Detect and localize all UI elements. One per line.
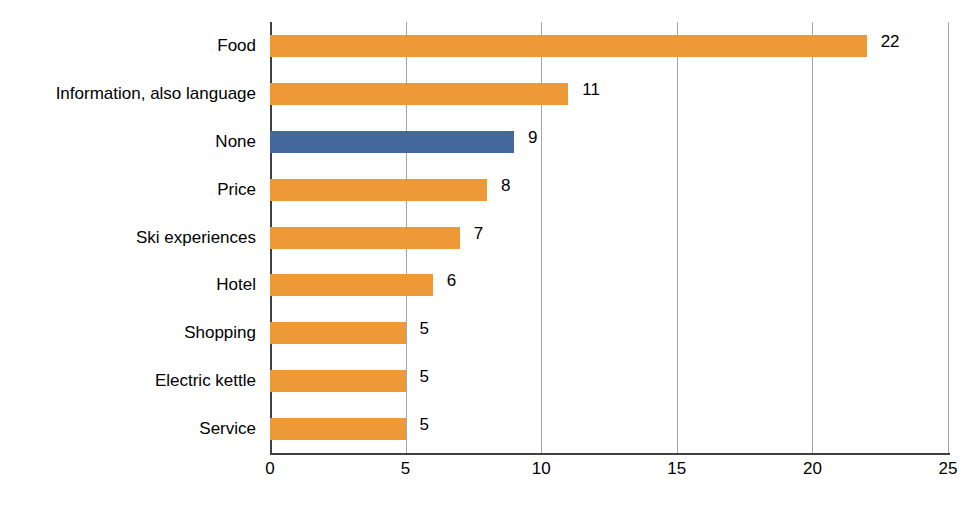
bar-value-label: 22	[881, 31, 900, 53]
x-tick-label-15: 15	[657, 459, 697, 479]
bar[interactable]	[270, 274, 433, 296]
category-label: Service	[0, 405, 256, 453]
bar-chart: 22119876555 FoodInformation, also langua…	[0, 0, 980, 514]
bar-value-label: 6	[447, 270, 456, 292]
bar-row: 11	[270, 70, 948, 118]
bar[interactable]	[270, 131, 514, 153]
bar[interactable]	[270, 418, 406, 440]
x-tick-label-5: 5	[386, 459, 426, 479]
bar[interactable]	[270, 370, 406, 392]
gridline-25	[948, 22, 949, 453]
category-label: Information, also language	[0, 70, 256, 118]
x-tick-label-20: 20	[792, 459, 832, 479]
bar[interactable]	[270, 227, 460, 249]
category-label: Shopping	[0, 309, 256, 357]
bar-value-label: 9	[528, 127, 537, 149]
category-label: Electric kettle	[0, 357, 256, 405]
bar-row: 5	[270, 357, 948, 405]
bar-value-label: 5	[420, 318, 429, 340]
category-label: Price	[0, 166, 256, 214]
bar-row: 9	[270, 118, 948, 166]
x-tick-label-0: 0	[250, 459, 290, 479]
bar-value-label: 7	[474, 223, 483, 245]
bar-row: 7	[270, 214, 948, 262]
bar-value-label: 11	[582, 79, 600, 101]
bar[interactable]	[270, 179, 487, 201]
bar-row: 5	[270, 309, 948, 357]
bar[interactable]	[270, 83, 568, 105]
x-tick-label-25: 25	[928, 459, 968, 479]
category-label: None	[0, 118, 256, 166]
bar-value-label: 5	[420, 414, 429, 436]
category-label: Food	[0, 22, 256, 70]
plot-area: 22119876555	[270, 22, 948, 453]
category-label: Ski experiences	[0, 214, 256, 262]
category-label: Hotel	[0, 261, 256, 309]
x-tick-label-10: 10	[521, 459, 561, 479]
bar-row: 6	[270, 261, 948, 309]
bar-row: 22	[270, 22, 948, 70]
bar-row: 8	[270, 166, 948, 214]
x-axis-line	[270, 453, 950, 455]
bar[interactable]	[270, 35, 867, 57]
bar-value-label: 8	[501, 175, 510, 197]
bar-row: 5	[270, 405, 948, 453]
bar[interactable]	[270, 322, 406, 344]
bar-value-label: 5	[420, 366, 429, 388]
